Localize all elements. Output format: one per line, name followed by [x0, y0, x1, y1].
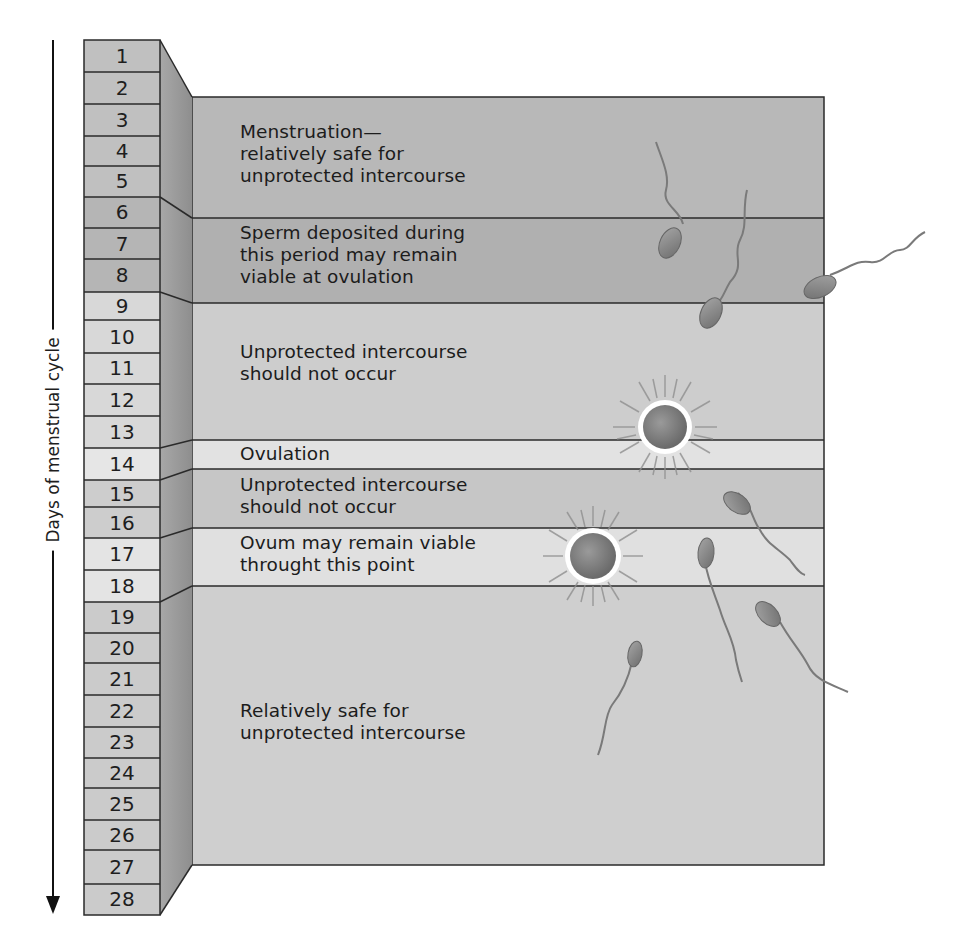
day-label: 28 — [84, 889, 160, 909]
day-label: 22 — [84, 701, 160, 721]
day-label: 21 — [84, 669, 160, 689]
side-face — [160, 40, 192, 915]
axis-label: Days of menstrual cycle — [43, 329, 63, 550]
day-label: 15 — [84, 484, 160, 504]
day-label: 18 — [84, 576, 160, 596]
day-label: 14 — [84, 454, 160, 474]
day-label: 12 — [84, 390, 160, 410]
menstrual-cycle-diagram: 1 2 3 4 5 6 7 8 9 10 11 12 13 14 15 16 1… — [0, 0, 956, 946]
day-label: 24 — [84, 763, 160, 783]
day-label: 2 — [84, 78, 160, 98]
day-label: 4 — [84, 141, 160, 161]
day-label: 11 — [84, 358, 160, 378]
band-ovum-viable-text: Ovum may remain viable throught this poi… — [240, 532, 476, 576]
band-luteal-safe-text: Relatively safe for unprotected intercou… — [240, 700, 466, 744]
day-label: 23 — [84, 732, 160, 752]
day-label: 20 — [84, 638, 160, 658]
day-label: 9 — [84, 296, 160, 316]
band-sperm-viable-text: Sperm deposited during this period may r… — [240, 222, 465, 288]
band-ovulation-text: Ovulation — [240, 443, 330, 465]
day-label: 3 — [84, 110, 160, 130]
day-label: 8 — [84, 265, 160, 285]
day-label: 16 — [84, 513, 160, 533]
day-label: 7 — [84, 234, 160, 254]
day-label: 19 — [84, 607, 160, 627]
day-label: 5 — [84, 171, 160, 191]
day-label: 6 — [84, 202, 160, 222]
band-post-ovulation-unsafe-text: Unprotected intercourse should not occur — [240, 474, 467, 518]
band-menstruation-text: Menstruation— relatively safe for unprot… — [240, 121, 466, 187]
day-label: 10 — [84, 327, 160, 347]
day-label: 26 — [84, 825, 160, 845]
day-label: 13 — [84, 422, 160, 442]
band-pre-ovulation-unsafe-text: Unprotected intercourse should not occur — [240, 341, 467, 385]
day-label: 25 — [84, 794, 160, 814]
day-label: 27 — [84, 857, 160, 877]
day-label: 17 — [84, 544, 160, 564]
day-label: 1 — [84, 46, 160, 66]
